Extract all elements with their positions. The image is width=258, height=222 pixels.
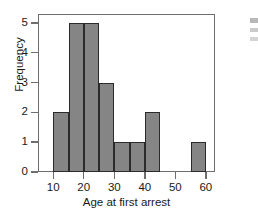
y-axis-tick [31, 82, 38, 83]
y-axis-tick-label: 1 [0, 136, 28, 148]
margin-text-fragment [250, 16, 258, 56]
y-axis-tick [31, 112, 38, 113]
margin-text-fragment-line [250, 18, 258, 23]
y-axis-tick [31, 52, 38, 53]
x-axis-tick-label: 60 [186, 181, 226, 193]
axes-layer: 012345102030405060 [0, 0, 258, 222]
margin-text-fragment-line [250, 37, 258, 41]
x-axis-tick [175, 172, 176, 179]
margin-text-fragment-line [250, 28, 258, 32]
y-axis-tick-label: 0 [0, 166, 28, 178]
x-axis-title: Age at first arrest [38, 196, 215, 209]
y-axis-tick [31, 171, 38, 172]
x-axis-tick [114, 172, 115, 179]
y-axis-tick [31, 22, 38, 23]
x-axis-tick [83, 172, 84, 179]
x-axis-tick [53, 172, 54, 179]
x-axis-tick [144, 172, 145, 179]
y-axis-tick [31, 141, 38, 142]
histogram-figure: 012345102030405060 Age at first arrest F… [0, 0, 258, 222]
x-axis-tick [205, 172, 206, 179]
y-axis-title: Frequency [13, 10, 26, 120]
